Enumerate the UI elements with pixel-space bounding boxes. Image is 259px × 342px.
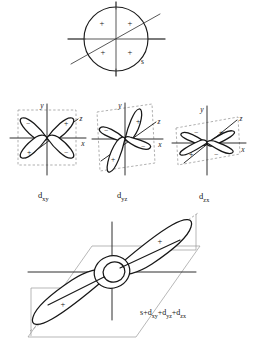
d-zx-sign: − [214,150,218,159]
hybrid-sign-lower: + [61,299,66,309]
d-xy-axis-label-y: y [39,101,44,110]
d-xy-label-sub: xy [42,195,48,202]
d-zx-axis-label-x: x [240,145,245,154]
d-yz-sign: + [136,117,140,126]
hybrid-sign-upper: + [158,236,163,246]
d-yz-label-sub: yz [121,195,127,202]
d-yz-sign: − [104,126,108,135]
s-orbital-sign: + [128,18,133,28]
s-orbital-sign: + [128,47,133,57]
hybrid-orbital-formula: s+dxy+dyz+dzx [140,308,186,317]
d-zx-axis-label-z: z [239,114,243,123]
d-zx-sign: + [189,150,193,159]
d-xy-sign: − [26,119,30,128]
d-zx-label-sub: zx [203,196,209,203]
d-zx-axis-label-y: y [199,105,204,114]
d-yz-sign: − [141,142,145,151]
d-zx-orbital-group: − + + − y x z [172,105,246,175]
figure-canvas: + + + + − + + − y x z [0,0,259,342]
s-orbital-label: s [141,57,144,66]
d-xy-axis-label-x: x [80,139,85,148]
d-xy-orbital-group: − + + − y x z [10,101,86,175]
d-zx-sign: + [219,128,223,137]
s-orbital-group: + + + + [68,2,165,76]
d-yz-lobe-lower-left [107,137,125,172]
d-yz-axis-label-z: z [157,117,161,126]
d-yz-axis-label-y: y [117,101,122,110]
d-yz-label: dyz [117,190,127,200]
hybrid-orbital-group: + + [28,213,200,337]
s-orbital-sign: + [100,18,105,28]
d-xy-lobe-lower-left [20,135,47,158]
d-xy-label: dxy [38,190,49,200]
formula-sub-zx: zx [180,313,186,319]
d-xy-lobe-lower-right [47,135,74,158]
d-zx-label: dzx [199,191,209,201]
orbital-figure: + + + + − + + − y x z [0,0,259,342]
d-zx-sign: − [194,128,198,137]
d-xy-sign: − [64,148,68,157]
d-xy-sign: + [64,119,68,128]
s-orbital-sign: + [101,47,106,57]
d-xy-sign: + [27,148,31,157]
d-xy-axis-label-z: z [79,114,83,123]
d-yz-orbital-group: + − − + y x z [92,101,163,175]
d-yz-sign: + [111,155,115,164]
d-yz-axis-label-x: x [157,140,162,149]
